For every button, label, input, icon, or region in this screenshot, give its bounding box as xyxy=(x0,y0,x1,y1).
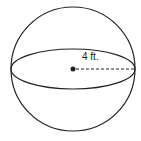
center-point xyxy=(71,67,76,72)
radius-label: 4 ft. xyxy=(82,51,99,62)
sphere-diagram xyxy=(0,0,141,141)
